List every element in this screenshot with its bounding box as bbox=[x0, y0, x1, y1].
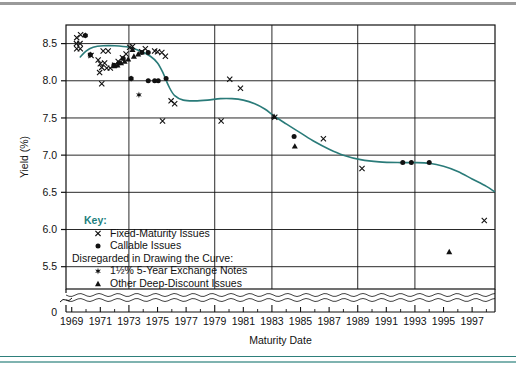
key-subheading: Disregarded in Drawing the Curve: bbox=[72, 252, 233, 264]
data-point-dot bbox=[139, 50, 144, 55]
key-title: Key: bbox=[84, 214, 107, 226]
y-axis-title: Yield (%) bbox=[18, 136, 30, 178]
axis-break-wave-upper bbox=[66, 294, 495, 297]
x-tick-label: 1983 bbox=[260, 315, 284, 327]
y-tick-label: 7.5 bbox=[42, 112, 57, 124]
data-point-dot bbox=[292, 134, 297, 139]
key-label: 1½% 5-Year Exchange Notes bbox=[110, 264, 247, 276]
y-tick-label: 7.0 bbox=[42, 149, 57, 161]
x-tick-label: 1997 bbox=[460, 315, 484, 327]
axis-break-wave-lower bbox=[66, 299, 495, 302]
data-point-dot bbox=[156, 78, 161, 83]
data-point-dot bbox=[409, 160, 414, 165]
data-point-dot bbox=[146, 50, 151, 55]
x-tick-label: 1991 bbox=[375, 315, 399, 327]
key-label: Fixed-Maturity Issues bbox=[110, 227, 210, 239]
x-axis-title: Maturity Date bbox=[249, 334, 312, 346]
data-point-dot bbox=[400, 160, 405, 165]
key-marker-dot bbox=[96, 244, 101, 249]
y-tick-label: 6.5 bbox=[42, 186, 57, 198]
y-tick-label: 8.0 bbox=[42, 74, 57, 86]
x-tick-label: 1981 bbox=[232, 315, 256, 327]
x-tick-label: 1969 bbox=[60, 315, 84, 327]
x-tick-label: 1989 bbox=[346, 315, 370, 327]
y-tick-label: 6.0 bbox=[42, 223, 57, 235]
y-axis-zero-label: 0 bbox=[51, 306, 57, 318]
x-tick-label: 1987 bbox=[317, 315, 341, 327]
figure-container: 5.56.06.57.07.58.08.50196919711973197519… bbox=[0, 0, 516, 368]
data-point-dot bbox=[164, 76, 169, 81]
yield-curve-chart: 5.56.06.57.07.58.08.50196919711973197519… bbox=[0, 0, 516, 368]
x-tick-label: 1973 bbox=[117, 315, 141, 327]
x-tick-label: 1979 bbox=[203, 315, 227, 327]
y-tick-label: 8.5 bbox=[42, 37, 57, 49]
x-tick-label: 1993 bbox=[403, 315, 427, 327]
x-tick-label: 1971 bbox=[89, 315, 113, 327]
y-tick-label: 5.5 bbox=[42, 260, 57, 272]
x-tick-label: 1975 bbox=[146, 315, 170, 327]
x-tick-label: 1985 bbox=[289, 315, 313, 327]
key-label: Callable Issues bbox=[110, 239, 181, 251]
x-tick-label: 1977 bbox=[174, 315, 198, 327]
data-point-dot bbox=[146, 78, 151, 83]
x-tick-label: 1995 bbox=[432, 315, 456, 327]
data-point-dot bbox=[427, 160, 432, 165]
key-label: Other Deep-Discount Issues bbox=[110, 277, 242, 289]
